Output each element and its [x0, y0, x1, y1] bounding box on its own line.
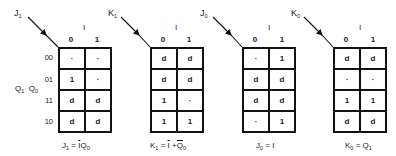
row-header-01: 01: [39, 76, 53, 84]
cell: d: [85, 111, 111, 132]
cell: ·: [85, 69, 111, 90]
cell: d: [151, 69, 177, 90]
kmap-k1: d d d d 1 · 1 1: [150, 47, 204, 133]
cell: d: [151, 48, 177, 69]
arrow-j1: [28, 17, 46, 35]
map-label-j0: J0: [200, 9, 208, 21]
cell: ·: [334, 69, 360, 90]
col-header-1: 1: [176, 36, 202, 44]
column-variable-k0: I: [355, 24, 365, 32]
cell: 1: [360, 90, 386, 111]
cell: ·: [177, 90, 203, 111]
col-header-0: 0: [333, 36, 359, 44]
cell: d: [243, 90, 269, 111]
cell: d: [269, 69, 295, 90]
cell: d: [360, 111, 386, 132]
col-header-0: 0: [242, 36, 268, 44]
col-header-1: 1: [360, 36, 386, 44]
formula-j0: J0 = I: [256, 141, 274, 151]
cell: d: [177, 48, 203, 69]
cell: d: [334, 111, 360, 132]
cell: ·: [85, 48, 111, 69]
cell: 1: [334, 90, 360, 111]
cell: 1: [151, 111, 177, 132]
column-variable-j0: I: [264, 24, 274, 32]
formula-k1: K1 = I +Q0: [150, 141, 186, 151]
cell: d: [59, 111, 85, 132]
map-label-k0: K0: [291, 9, 300, 21]
arrow-k1: [121, 17, 139, 35]
row-header-00: 00: [39, 54, 53, 62]
col-header-1: 1: [84, 36, 110, 44]
cell: d: [177, 69, 203, 90]
cell: d: [269, 90, 295, 111]
col-header-0: 0: [150, 36, 176, 44]
cell: 1: [269, 48, 295, 69]
cell: ·: [59, 48, 85, 69]
cell: ·: [360, 69, 386, 90]
col-header-0: 0: [58, 36, 84, 44]
kmap-k0: d d · · 1 1 d d: [333, 47, 387, 133]
row-variable-label: Q1 Q0: [15, 85, 38, 95]
cell: ·: [243, 48, 269, 69]
cell: d: [59, 90, 85, 111]
formula-j1: J1 = IQ0: [62, 141, 90, 151]
column-variable-k1: I: [171, 24, 181, 32]
row-header-10: 10: [39, 118, 53, 126]
map-label-k1: K1: [108, 9, 117, 21]
cell: ·: [243, 111, 269, 132]
formula-k0: K0 = Q1: [345, 141, 372, 151]
map-label-j1: J1: [14, 9, 22, 21]
cell: 1: [151, 90, 177, 111]
cell: 1: [177, 111, 203, 132]
cell: d: [243, 69, 269, 90]
cell: 1: [269, 111, 295, 132]
cell: d: [334, 48, 360, 69]
col-header-1: 1: [269, 36, 295, 44]
arrow-j0: [213, 17, 231, 35]
arrow-k0: [304, 17, 322, 35]
column-variable-j1: I: [79, 24, 89, 32]
cell: 1: [59, 69, 85, 90]
row-header-11: 11: [39, 97, 53, 105]
cell: d: [85, 90, 111, 111]
cell: d: [360, 48, 386, 69]
kmap-j0: · 1 d d d d · 1: [242, 47, 296, 133]
kmap-j1: · · 1 · d d d d: [58, 47, 112, 133]
